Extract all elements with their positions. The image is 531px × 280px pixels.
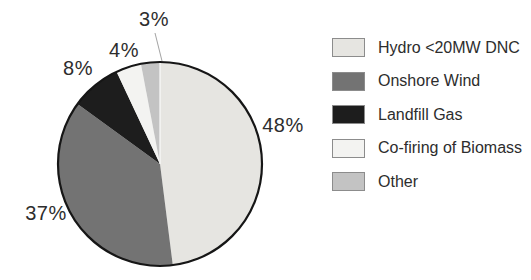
leader-line — [155, 33, 162, 61]
pie-chart-figure: 48% 37% 8% 4% 3% Hydro <20MW DNC Onshore… — [0, 0, 531, 280]
legend-swatch-hydro — [332, 38, 365, 57]
legend-swatch-onshore-wind — [332, 72, 365, 91]
legend-label-hydro: Hydro <20MW DNC — [378, 39, 520, 57]
slice-value-label-onshore-wind: 37% — [25, 202, 67, 225]
slice-value-label-landfill-gas: 8% — [63, 57, 93, 80]
slice-value-label-other: 3% — [139, 8, 169, 31]
legend-label-landfill-gas: Landfill Gas — [378, 106, 463, 124]
legend-swatch-cofiring — [332, 139, 365, 158]
legend-item-onshore-wind: Onshore Wind — [332, 72, 522, 91]
slice-value-label-hydro: 48% — [262, 114, 304, 137]
pie-slice — [160, 62, 262, 265]
legend: Hydro <20MW DNC Onshore Wind Landfill Ga… — [332, 38, 522, 191]
legend-item-cofiring: Co-firing of Biomass — [332, 139, 522, 158]
legend-swatch-other — [332, 172, 365, 191]
legend-item-other: Other — [332, 172, 522, 191]
legend-label-onshore-wind: Onshore Wind — [378, 72, 480, 90]
legend-item-landfill-gas: Landfill Gas — [332, 105, 522, 124]
legend-swatch-landfill-gas — [332, 105, 365, 124]
slice-value-label-cofiring: 4% — [109, 39, 139, 62]
legend-label-other: Other — [378, 173, 418, 191]
legend-label-cofiring: Co-firing of Biomass — [378, 139, 522, 157]
legend-item-hydro: Hydro <20MW DNC — [332, 38, 522, 57]
